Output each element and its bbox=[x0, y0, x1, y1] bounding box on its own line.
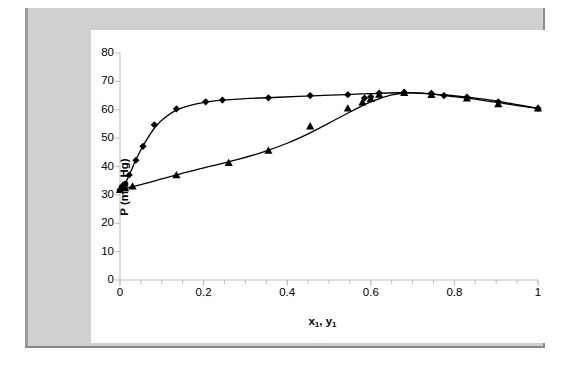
x-axis-title: x1, y1 bbox=[91, 315, 554, 327]
y-tick-label: 50 bbox=[101, 132, 114, 144]
data-point-diamond bbox=[265, 94, 272, 101]
data-point-diamond bbox=[132, 157, 139, 164]
plot-area: 0102030405060708000.20.40.60.81 bbox=[120, 53, 538, 280]
chart-canvas: P (mm Hg) 0102030405060708000.20.40.60.8… bbox=[91, 30, 554, 343]
x-tick-label: 0.8 bbox=[446, 287, 462, 299]
data-point-diamond bbox=[151, 121, 158, 128]
data-point-diamond bbox=[126, 171, 133, 178]
y-tick-label: 40 bbox=[101, 161, 114, 173]
x-tick-label: 0.2 bbox=[196, 287, 212, 299]
data-point-triangle bbox=[344, 104, 352, 111]
y-tick-label: 30 bbox=[101, 189, 114, 201]
scan-frame: P (mm Hg) 0102030405060708000.20.40.60.8… bbox=[25, 8, 545, 348]
y-tick-label: 20 bbox=[101, 218, 114, 230]
data-point-diamond bbox=[440, 92, 447, 99]
data-point-diamond bbox=[344, 91, 351, 98]
series-triangle bbox=[116, 89, 542, 193]
data-point-triangle bbox=[264, 147, 272, 154]
chart-svg bbox=[120, 53, 538, 280]
y-tick-label: 60 bbox=[101, 104, 114, 116]
x-tick-label: 0 bbox=[117, 287, 123, 299]
data-point-diamond bbox=[307, 92, 314, 99]
data-point-diamond bbox=[219, 97, 226, 104]
y-tick-label: 10 bbox=[101, 246, 114, 258]
x-tick-label: 0.6 bbox=[363, 287, 379, 299]
data-point-diamond bbox=[139, 143, 146, 150]
vapor-curve bbox=[120, 93, 538, 190]
y-tick-label: 80 bbox=[101, 47, 114, 59]
data-point-diamond bbox=[202, 98, 209, 105]
data-point-triangle bbox=[306, 122, 314, 129]
chart-screenshot: P (mm Hg) 0102030405060708000.20.40.60.8… bbox=[0, 0, 573, 377]
x-tick-label: 1 bbox=[535, 287, 541, 299]
x-tick-label: 0.4 bbox=[279, 287, 295, 299]
y-tick-label: 0 bbox=[108, 274, 114, 286]
y-tick-label: 70 bbox=[101, 76, 114, 88]
